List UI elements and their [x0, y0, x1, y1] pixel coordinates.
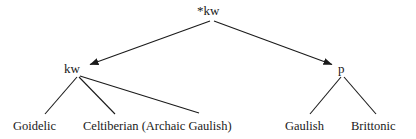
edge-kw-to-celtiberian	[79, 77, 115, 114]
language-tree-diagram: *kw kw p Goidelic Celtiberian (Archaic G…	[0, 0, 416, 139]
node-gaulish: Gaulish	[285, 120, 324, 133]
edge-kw-to-archaic-gaulish	[80, 76, 199, 113]
node-goidelic: Goidelic	[13, 120, 56, 133]
node-brittonic: Brittonic	[351, 120, 395, 133]
node-p: p	[338, 62, 345, 75]
node-celtiberian: Celtiberian (Archaic Gaulish)	[83, 120, 232, 133]
edge-root-to-p	[214, 21, 332, 65]
edge-p-to-gaulish	[310, 77, 341, 114]
node-kw: kw	[64, 62, 80, 75]
edge-kw-to-goidelic	[45, 77, 77, 114]
node-root-proto-kw: *kw	[197, 4, 219, 17]
edge-root-to-kw	[90, 21, 210, 65]
edge-p-to-brittonic	[344, 77, 376, 114]
